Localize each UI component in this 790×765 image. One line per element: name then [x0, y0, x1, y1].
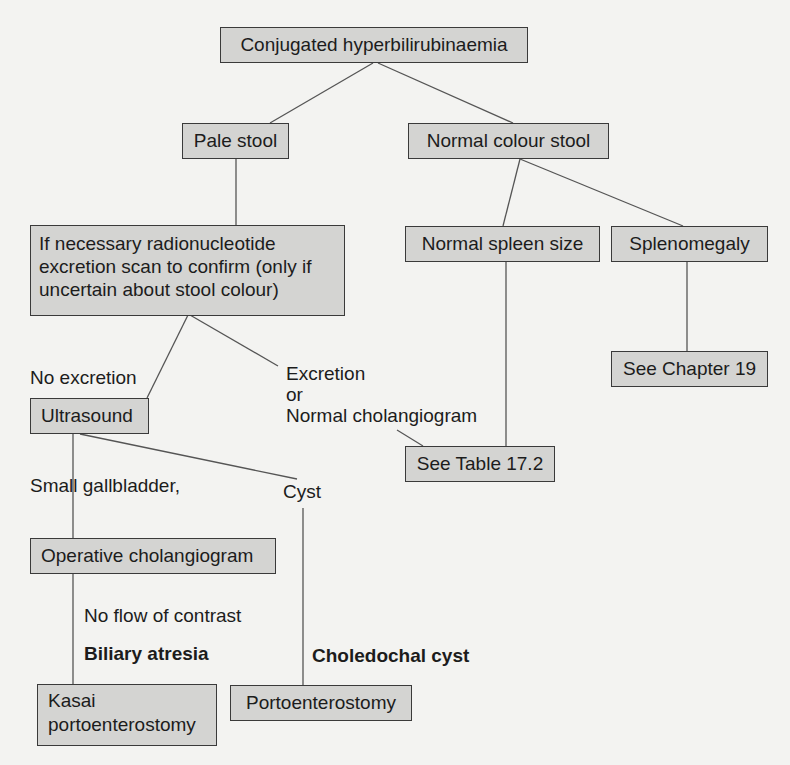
label-no-excretion: No excretion — [30, 367, 137, 389]
label-biliary-atresia: Biliary atresia — [84, 643, 209, 665]
node-label: Portoenterostomy — [246, 692, 396, 713]
node-label: See Chapter 19 — [623, 358, 756, 379]
label-normal-cholangiogram: Normal cholangiogram — [286, 405, 477, 426]
node-label: Conjugated hyperbilirubinaemia — [240, 34, 507, 55]
node-kasai-portoenterostomy: Kasai portoenterostomy — [37, 684, 217, 746]
node-label: Normal spleen size — [422, 233, 584, 254]
node-label: Operative cholangiogram — [41, 545, 253, 566]
edge-ultrasound-cyst — [80, 434, 297, 479]
node-conjugated-hyperbilirubinaemia: Conjugated hyperbilirubinaemia — [220, 27, 528, 63]
node-see-table-17-2: See Table 17.2 — [405, 446, 555, 482]
node-portoenterostomy: Portoenterostomy — [230, 685, 412, 721]
node-label: Ultrasound — [41, 405, 133, 426]
label-small-gallbladder: Small gallbladder, — [30, 475, 180, 497]
edge-radionucleotide-ultrasound — [147, 315, 188, 398]
node-label: If necessary radionucleotide excretion s… — [39, 233, 311, 300]
edge-normal-stool-normal-spleen — [503, 159, 520, 226]
node-normal-spleen-size: Normal spleen size — [405, 226, 600, 262]
node-normal-colour-stool: Normal colour stool — [408, 123, 609, 159]
node-label: Normal colour stool — [427, 130, 591, 151]
node-radionucleotide-scan: If necessary radionucleotide excretion s… — [30, 225, 345, 316]
label-excretion: Excretion — [286, 363, 477, 384]
edge-normal-stool-splenomegaly — [520, 159, 683, 226]
node-see-chapter-19: See Chapter 19 — [611, 351, 768, 387]
node-ultrasound: Ultrasound — [30, 398, 149, 434]
node-label: Pale stool — [194, 130, 277, 151]
node-operative-cholangiogram: Operative cholangiogram — [30, 538, 276, 574]
node-label: See Table 17.2 — [417, 453, 543, 474]
edge-excretion-see-table — [397, 430, 423, 446]
label-or: or — [286, 384, 477, 405]
node-pale-stool: Pale stool — [182, 123, 289, 159]
label-choledochal-cyst: Choledochal cyst — [312, 645, 469, 667]
edge-root-pale-stool — [270, 63, 373, 123]
node-label: Splenomegaly — [629, 233, 749, 254]
label-excretion-group: Excretion or Normal cholangiogram — [286, 363, 477, 426]
label-cyst: Cyst — [283, 481, 321, 503]
node-splenomegaly: Splenomegaly — [611, 226, 768, 262]
node-label: Kasai portoenterostomy — [48, 690, 196, 735]
edge-radionucleotide-excretion — [190, 315, 278, 366]
edge-root-normal-stool — [378, 63, 513, 123]
label-no-flow-of-contrast: No flow of contrast — [84, 605, 241, 627]
